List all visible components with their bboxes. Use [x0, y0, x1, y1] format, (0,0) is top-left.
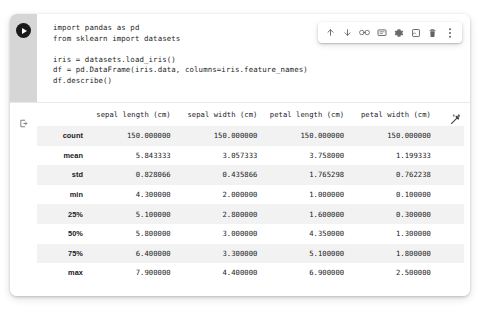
table-row: std 0.828066 0.435866 1.765298 0.762238 — [37, 165, 464, 185]
column-header: petal length (cm) — [267, 103, 354, 126]
play-icon — [22, 28, 27, 34]
table-cell: 150.000000 — [267, 126, 354, 146]
table-cell: 3.758000 — [267, 146, 354, 166]
cell-toolbar — [318, 22, 462, 43]
code-line-blank — [53, 44, 470, 55]
table-cell-spacer — [440, 146, 464, 166]
table-row: count 150.000000 150.000000 150.000000 1… — [37, 126, 464, 146]
row-index: 75% — [37, 244, 93, 264]
table-cell: 2.800000 — [180, 204, 267, 224]
table-cell: 1.199333 — [353, 146, 440, 166]
table-cell-spacer — [440, 204, 464, 224]
table-cell: 1.600000 — [267, 204, 354, 224]
table-row: min 4.300000 2.000000 1.000000 0.100000 — [37, 185, 464, 205]
table-row: 25% 5.100000 2.800000 1.600000 0.300000 — [37, 204, 464, 224]
move-cell-up-icon[interactable] — [322, 23, 339, 42]
output-gutter — [10, 103, 37, 296]
comment-icon[interactable] — [373, 23, 390, 42]
table-cell: 4.300000 — [93, 185, 180, 205]
table-cell: 4.350000 — [267, 224, 354, 244]
table-body: count 150.000000 150.000000 150.000000 1… — [37, 126, 464, 283]
table-cell: 1.765298 — [267, 165, 354, 185]
table-row: max 7.900000 4.400000 6.900000 2.500000 — [37, 263, 464, 283]
table-cell: 0.100000 — [353, 185, 440, 205]
table-cell: 4.400000 — [180, 263, 267, 283]
table-cell: 0.435866 — [180, 165, 267, 185]
table-cell: 1.300000 — [353, 224, 440, 244]
table-cell: 5.100000 — [93, 204, 180, 224]
table-cell: 1.000000 — [267, 185, 354, 205]
link-to-cell-icon[interactable] — [356, 23, 373, 42]
table-cell-spacer — [440, 224, 464, 244]
table-cell: 5.843333 — [93, 146, 180, 166]
table-cell-spacer — [440, 126, 464, 146]
cell-gutter — [10, 14, 37, 102]
output-console-icon — [19, 114, 28, 296]
row-index: count — [37, 126, 93, 146]
table-cell: 2.000000 — [180, 185, 267, 205]
row-index: std — [37, 165, 93, 185]
table-index-header — [37, 103, 93, 126]
table-cell: 0.762238 — [353, 165, 440, 185]
more-options-icon[interactable] — [441, 23, 458, 42]
move-cell-down-icon[interactable] — [339, 23, 356, 42]
table-cell: 150.000000 — [353, 126, 440, 146]
table-row: mean 5.843333 3.057333 3.758000 1.199333 — [37, 146, 464, 166]
table-cell: 3.000000 — [180, 224, 267, 244]
table-cell: 3.057333 — [180, 146, 267, 166]
table-cell: 0.300000 — [353, 204, 440, 224]
table-cell: 0.828066 — [93, 165, 180, 185]
row-index: mean — [37, 146, 93, 166]
table-cell: 2.500000 — [353, 263, 440, 283]
trash-icon[interactable] — [424, 23, 441, 42]
code-line: df = pd.DataFrame(iris.data, columns=iri… — [53, 65, 470, 76]
row-index: 25% — [37, 204, 93, 224]
table-cell-spacer — [440, 165, 464, 185]
column-header: petal width (cm) — [353, 103, 440, 126]
table-cell: 5.100000 — [267, 244, 354, 264]
table-cell: 1.800000 — [353, 244, 440, 264]
table-cell-spacer — [440, 263, 464, 283]
table-cell: 6.900000 — [267, 263, 354, 283]
describe-table: sepal length (cm) sepal width (cm) petal… — [37, 103, 464, 283]
table-cell: 3.300000 — [180, 244, 267, 264]
column-header: sepal length (cm) — [93, 103, 180, 126]
table-cell: 150.000000 — [93, 126, 180, 146]
row-index: max — [37, 263, 93, 283]
column-header: sepal width (cm) — [180, 103, 267, 126]
table-row: 75% 6.400000 3.300000 5.100000 1.800000 — [37, 244, 464, 264]
notebook-code-cell: import pandas as pd from sklearn import … — [10, 14, 470, 296]
table-cell: 5.800000 — [93, 224, 180, 244]
magic-wand-icon[interactable] — [446, 110, 464, 128]
code-line: df.describe() — [53, 76, 470, 87]
table-header-row: sepal length (cm) sepal width (cm) petal… — [37, 103, 464, 126]
row-index: 50% — [37, 224, 93, 244]
cell-output-area: sepal length (cm) sepal width (cm) petal… — [10, 103, 470, 296]
table-row: 50% 5.800000 3.000000 4.350000 1.300000 — [37, 224, 464, 244]
output-content: sepal length (cm) sepal width (cm) petal… — [37, 103, 470, 296]
row-index: min — [37, 185, 93, 205]
copy-cell-icon[interactable] — [407, 23, 424, 42]
gear-icon[interactable] — [390, 23, 407, 42]
table-cell-spacer — [440, 185, 464, 205]
table-cell: 7.900000 — [93, 263, 180, 283]
code-line: iris = datasets.load_iris() — [53, 55, 470, 66]
table-cell: 150.000000 — [180, 126, 267, 146]
table-cell: 6.400000 — [93, 244, 180, 264]
table-cell-spacer — [440, 244, 464, 264]
run-cell-button[interactable] — [16, 23, 31, 38]
table-header: sepal length (cm) sepal width (cm) petal… — [37, 103, 464, 126]
